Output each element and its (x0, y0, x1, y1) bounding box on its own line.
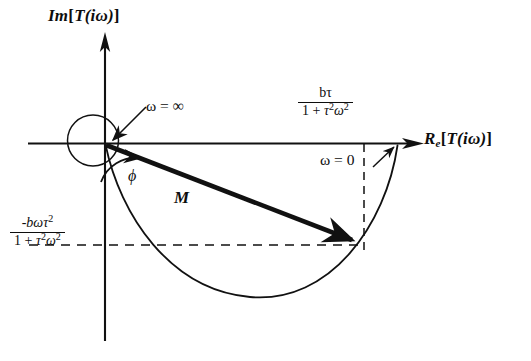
imaginary-axis-label-arg: T(iω) (74, 6, 114, 25)
magnitude-label: M (174, 189, 189, 207)
imag-value-denominator: 1 + τ2ω2 (10, 232, 65, 249)
real-value-fraction: bτ 1 + τ2ω2 (298, 86, 353, 118)
omega-zero-label: ω = 0 (320, 152, 354, 168)
real-axis-label: Re[T(iω)] (424, 130, 492, 150)
imaginary-axis-bracket-close: ] (114, 6, 120, 25)
imag-value-fraction: -bωτ2 1 + τ2ω2 (10, 216, 65, 248)
real-axis-label-name: R (424, 129, 436, 148)
magnitude-vector (106, 145, 352, 240)
omega-infinity-leader (113, 107, 146, 140)
imaginary-axis-value-label: -bωτ2 1 + τ2ω2 (10, 216, 65, 248)
guide-lines (29, 144, 364, 252)
imaginary-axis-label: Im[T(iω)] (48, 7, 120, 25)
figure-canvas (0, 0, 531, 361)
real-value-denominator: 1 + τ2ω2 (298, 102, 353, 119)
magnitude-vector-line (106, 145, 352, 240)
real-value-numerator: bτ (298, 86, 353, 102)
nyquist-figure: Im[T(iω)] Re[T(iω)] ω = ∞ ω = 0 M ϕ bτ 1… (0, 0, 531, 361)
real-axis-value-label: bτ 1 + τ2ω2 (298, 86, 353, 118)
real-axis-label-arg: T(iω) (447, 129, 487, 148)
omega-infinity-leader-line (113, 107, 146, 140)
omega-infinity-label: ω = ∞ (146, 98, 184, 114)
omega-zero-leader-line (373, 147, 394, 167)
phase-angle-label: ϕ (128, 168, 136, 185)
imaginary-axis-label-name: Im (48, 6, 68, 25)
origin-detail-circle (68, 115, 119, 166)
omega-zero-leader (373, 147, 394, 167)
real-axis-bracket-close: ] (486, 129, 492, 148)
imag-value-numerator: -bωτ2 (10, 216, 65, 232)
